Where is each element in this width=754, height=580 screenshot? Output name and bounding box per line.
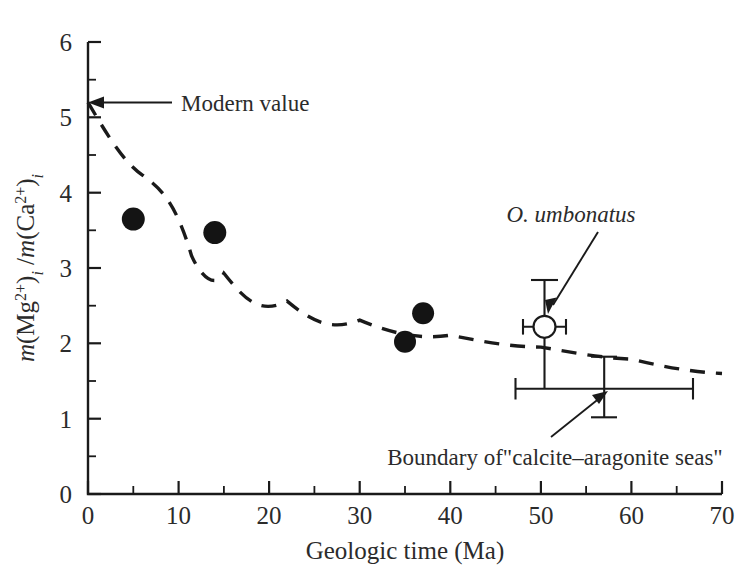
data-point-filled-2 [203, 221, 226, 244]
y-axis-tick-labels: 0 1 2 3 4 5 6 [60, 29, 73, 508]
y-axis-title: m(Mg2+)i /m(Ca2+)i [12, 174, 46, 362]
y-title-sub2: i [29, 174, 46, 178]
x-tick-label-50: 50 [528, 502, 553, 529]
annotation-boundary: Boundary of"calcite–aragonite seas" [387, 391, 723, 470]
o-umbonatus-arrowhead-icon [545, 298, 557, 315]
x-tick-label-20: 20 [257, 502, 282, 529]
x-tick-label-30: 30 [347, 502, 372, 529]
x-tick-label-60: 60 [619, 502, 644, 529]
y-tick-label-4: 4 [60, 180, 73, 207]
y-tick-label-3: 3 [60, 255, 73, 282]
svg-text:m(Mg2+)i /m(Ca2+)i: m(Mg2+)i /m(Ca2+)i [12, 174, 46, 362]
y-title-close2: ) [12, 178, 40, 186]
y-title-m1: m [12, 344, 39, 362]
y-title-sup1: 2+ [12, 284, 29, 301]
y-title-slash: / [12, 258, 39, 271]
x-tick-label-70: 70 [710, 502, 735, 529]
x-tick-label-40: 40 [438, 502, 463, 529]
x-axis-title: Geologic time (Ma) [306, 537, 505, 565]
x-axis-tick-labels: 0 10 20 30 40 50 60 70 [82, 502, 735, 529]
annotation-o-umbonatus: O. umbonatus [506, 202, 635, 314]
annotation-modern-value: Modern value [88, 91, 309, 116]
annotation-label-boundary: Boundary of"calcite–aragonite seas" [387, 445, 723, 470]
x-tick-label-0: 0 [82, 502, 95, 529]
o-umbonatus-leader-line [553, 232, 598, 305]
data-point-filled-3 [394, 331, 416, 353]
data-point-filled-1 [122, 208, 145, 231]
data-point-filled-4 [412, 302, 434, 324]
y-title-open2: (Ca [12, 204, 40, 240]
y-title-sup2: 2+ [12, 187, 29, 204]
data-point-o-umbonatus-group [523, 280, 566, 389]
y-tick-label-6: 6 [60, 29, 73, 56]
annotation-label-modern-value: Modern value [181, 91, 309, 116]
y-tick-label-1: 1 [60, 406, 73, 433]
y-title-open1: (Mg [12, 300, 40, 344]
x-tick-label-10: 10 [166, 502, 191, 529]
y-tick-label-0: 0 [60, 481, 73, 508]
y-tick-label-2: 2 [60, 330, 73, 357]
data-point-open-o-umbonatus [534, 316, 556, 338]
y-title-close1: ) [12, 276, 40, 284]
chart-figure: 0 1 2 3 4 5 6 0 10 20 30 40 50 60 70 Geo… [0, 0, 754, 580]
y-title-m2: m [12, 240, 39, 258]
y-axis-major-ticks [88, 42, 101, 494]
annotation-label-o-umbonatus: O. umbonatus [506, 202, 635, 227]
y-tick-label-5: 5 [60, 104, 73, 131]
chart-canvas: 0 1 2 3 4 5 6 0 10 20 30 40 50 60 70 Geo… [0, 0, 754, 580]
